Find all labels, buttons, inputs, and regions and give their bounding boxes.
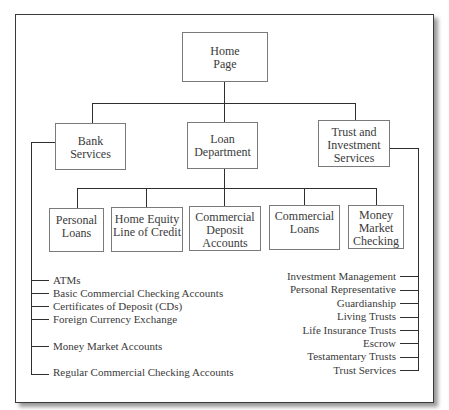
commercial-loans-node: Commercial Loans <box>269 205 340 250</box>
connector <box>31 319 49 320</box>
trust-item: Living Trusts <box>337 310 396 322</box>
connector <box>31 280 49 281</box>
personal-loans-label: Personal Loans <box>56 214 97 240</box>
bank-item: Foreign Currency Exchange <box>53 313 177 325</box>
connector <box>400 290 418 291</box>
home-page-label: Home Page <box>210 45 239 71</box>
connector <box>31 346 49 347</box>
home-equity-node: Home Equity Line of Credit <box>111 207 183 252</box>
connector <box>400 330 418 331</box>
trust-item: Escrow <box>363 337 396 349</box>
commercial-deposit-node: Commercial Deposit Accounts <box>189 206 261 251</box>
bank-item: Certificates of Deposit (CDs) <box>53 300 182 312</box>
connector <box>418 148 419 371</box>
commercial-loans-label: Commercial Loans <box>275 210 334 236</box>
home-page-node: Home Page <box>182 32 268 82</box>
bank-item: Basic Commercial Checking Accounts <box>53 287 223 299</box>
connector <box>400 317 418 318</box>
loan-department-label: Loan Department <box>194 133 251 159</box>
connector <box>400 303 418 304</box>
connector <box>31 306 49 307</box>
trust-item: Guardianship <box>337 297 396 309</box>
bank-services-label: Bank Services <box>70 135 111 161</box>
connector <box>146 188 147 207</box>
connector <box>376 188 377 205</box>
trust-item: Testamentary Trusts <box>307 350 396 362</box>
home-equity-label: Home Equity Line of Credit <box>113 213 181 239</box>
connector <box>92 103 356 104</box>
connector <box>92 103 93 123</box>
connector <box>31 374 49 375</box>
connector <box>304 188 305 206</box>
trust-investment-label: Trust and Investment Services <box>327 126 380 165</box>
trust-item: Trust Services <box>333 364 396 376</box>
connector <box>31 293 49 294</box>
connector <box>355 103 356 121</box>
personal-loans-node: Personal Loans <box>49 208 104 252</box>
bank-item: Regular Commercial Checking Accounts <box>53 366 234 378</box>
trust-item: Investment Management <box>287 270 396 282</box>
connector <box>390 148 418 149</box>
connector <box>31 142 55 143</box>
money-market-checking-label: Money Market Checking <box>353 209 399 248</box>
trust-investment-node: Trust and Investment Services <box>318 120 390 167</box>
connector <box>400 276 418 277</box>
connector <box>77 188 78 208</box>
connector <box>31 142 32 375</box>
bank-item: ATMs <box>53 274 81 286</box>
money-market-checking-node: Money Market Checking <box>348 205 404 249</box>
connector <box>77 188 377 189</box>
commercial-deposit-label: Commercial Deposit Accounts <box>195 211 254 250</box>
bank-services-node: Bank Services <box>55 123 126 170</box>
trust-item: Personal Representative <box>290 283 396 295</box>
connector <box>400 343 418 344</box>
connector <box>400 357 418 358</box>
loan-department-node: Loan Department <box>187 122 258 169</box>
bank-item: Money Market Accounts <box>53 340 162 352</box>
trust-item: Life Insurance Trusts <box>303 324 397 336</box>
connector <box>400 370 418 371</box>
connector <box>224 82 225 122</box>
